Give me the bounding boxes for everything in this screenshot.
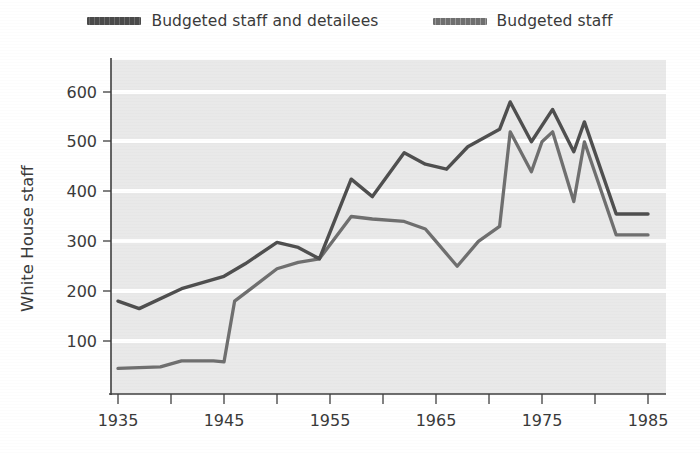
plot-background <box>111 60 666 394</box>
y-tick-label-600: 600 <box>66 83 97 102</box>
y-tick-label-300: 300 <box>66 232 97 251</box>
y-tick-label-200: 200 <box>66 282 97 301</box>
chart-svg: 600 500 400 300 200 100 White House staf… <box>0 0 700 453</box>
x-tick-label-1955: 1955 <box>310 411 351 430</box>
chart-page: Budgeted staff and detailees Budgeted st… <box>0 0 700 453</box>
x-tick-label-1965: 1965 <box>416 411 457 430</box>
x-tick-label-1975: 1975 <box>522 411 563 430</box>
x-axis-tick-labels: 1935 1945 1955 1965 1975 1985 <box>98 411 669 430</box>
chart-area: 600 500 400 300 200 100 White House staf… <box>0 0 700 453</box>
x-tick-label-1985: 1985 <box>628 411 669 430</box>
y-axis-ticks <box>103 92 111 341</box>
y-tick-label-400: 400 <box>66 182 97 201</box>
y-tick-label-100: 100 <box>66 332 97 351</box>
y-tick-label-500: 500 <box>66 132 97 151</box>
x-tick-label-1945: 1945 <box>204 411 245 430</box>
y-axis-tick-labels: 600 500 400 300 200 100 <box>66 83 97 351</box>
x-tick-label-1935: 1935 <box>98 411 139 430</box>
x-axis-ticks <box>118 394 648 404</box>
y-axis-title: White House staff <box>18 165 37 312</box>
